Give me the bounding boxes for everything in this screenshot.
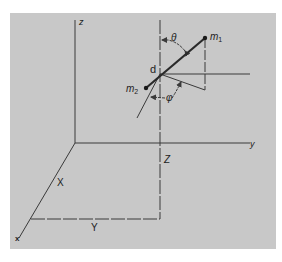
center-d-label: d [150,64,156,75]
diagram-canvas [0,0,282,262]
phi-label: φ [166,93,173,103]
figure-panel [10,13,276,249]
X-coordinate-label: X [57,178,64,188]
z-axis-label: z [79,18,84,27]
m2-subscript: 2 [134,88,138,95]
Y-coordinate-label: Y [91,223,98,233]
y-axis-label: y [250,140,255,149]
m2-label: m2 [126,84,138,95]
atom-m1 [203,36,207,40]
diatomic-molecule-coordinate-diagram: z y x Z X Y m1 m2 d θ φ [0,0,282,262]
m1-subscript: 1 [218,36,222,43]
atom-m2 [144,86,148,90]
m1-label: m1 [210,32,222,43]
x-axis-label: x [15,235,19,243]
theta-label: θ [171,33,176,43]
Z-coordinate-label: Z [164,155,170,165]
